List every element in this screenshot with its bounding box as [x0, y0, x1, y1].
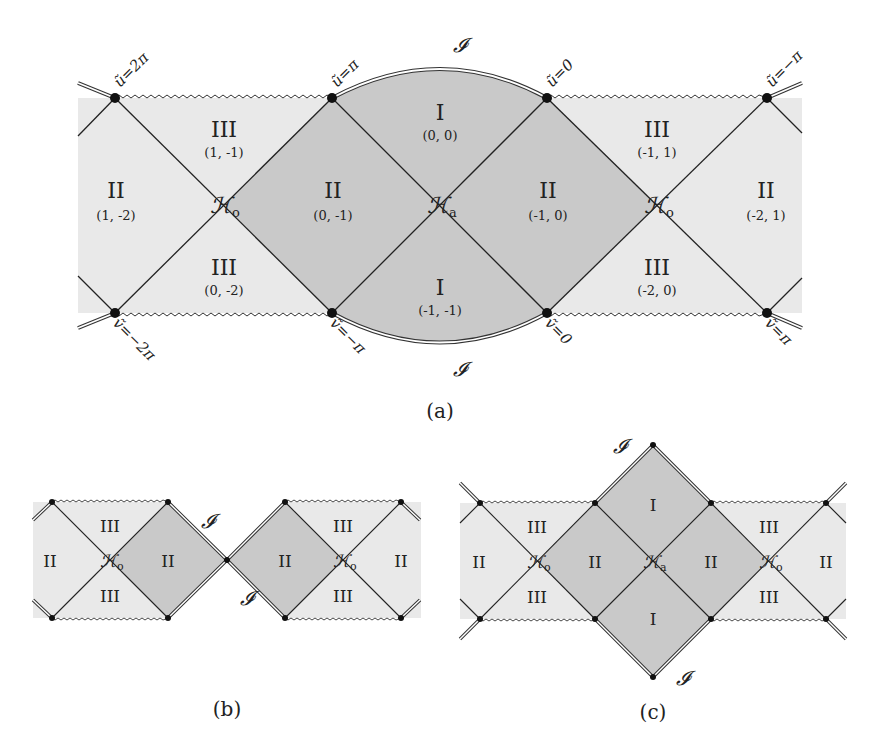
- region-coord: (-1, 0): [528, 208, 567, 223]
- region-label: II: [819, 552, 832, 572]
- region-label: III: [333, 516, 353, 536]
- panel-a: II (1, -2) III (1, -1) III (0, -2) II (0…: [78, 33, 807, 423]
- region-II-m2-1: II: [757, 178, 774, 203]
- boundary-v-m2pi: ṽ=−2π: [109, 314, 160, 365]
- caption-b: (b): [213, 697, 241, 721]
- region-I-m1-m1: I: [436, 275, 445, 300]
- region-III-m1-1: III: [644, 117, 670, 142]
- region-label: III: [100, 586, 120, 606]
- region-label: II: [161, 551, 174, 571]
- caption-c: (c): [640, 700, 667, 724]
- region-II-1-m2: II: [107, 178, 124, 203]
- singularity-top-left: [115, 95, 332, 98]
- region-label: II: [394, 551, 407, 571]
- region-label: II: [588, 552, 601, 572]
- region-label: III: [527, 517, 547, 537]
- boundary-u-0: ũ=0: [542, 55, 578, 91]
- scri-bottom-label: 𝓘: [453, 357, 473, 381]
- region-III-0-m2: III: [211, 255, 237, 280]
- boundary-v-pi: ṽ=π: [761, 314, 796, 349]
- region-coord: (0, -1): [313, 208, 352, 223]
- panel-c: II III III II I I II III III II ℋo ℋa ℋo…: [460, 434, 846, 724]
- region-label: III: [527, 587, 547, 607]
- region-I-0-0: I: [436, 100, 445, 125]
- region-label: III: [759, 517, 779, 537]
- penrose-diagram-figure: II (1, -2) III (1, -1) III (0, -2) II (0…: [0, 0, 881, 755]
- scri-bottom-label: 𝓘: [676, 666, 696, 690]
- region-II-0-m1: II: [324, 178, 341, 203]
- caption-a: (a): [426, 399, 454, 423]
- region-label: II: [472, 552, 485, 572]
- region-label: I: [650, 495, 657, 515]
- region-label: III: [100, 516, 120, 536]
- region-label: III: [333, 586, 353, 606]
- region-III-1-m1: III: [211, 117, 237, 142]
- region-coord: (-2, 1): [746, 208, 785, 223]
- region-label: II: [43, 551, 56, 571]
- region-coord: (0, 0): [423, 128, 458, 143]
- panel-b: II III III II II III III II ℋo ℋo 𝓘 𝓘 (b…: [33, 499, 421, 721]
- region-III-m2-0: III: [644, 255, 670, 280]
- region-label: II: [278, 551, 291, 571]
- scri-top-label: 𝓘: [453, 33, 473, 57]
- region-II-m1-0: II: [539, 178, 556, 203]
- boundary-u-2pi: ũ=2π: [110, 48, 153, 91]
- singularity-bottom-left: [115, 313, 332, 316]
- scri-top-label: 𝓘: [613, 434, 633, 458]
- region-label: II: [704, 552, 717, 572]
- region-coord: (-2, 0): [637, 283, 676, 298]
- region-coord: (1, -1): [204, 145, 243, 160]
- region-label: I: [650, 609, 657, 629]
- region-coord: (-1, 1): [637, 145, 676, 160]
- boundary-v-0: ṽ=0: [541, 314, 576, 349]
- region-coord: (-1, -1): [418, 303, 462, 318]
- region-coord: (1, -2): [96, 208, 135, 223]
- region-coord: (0, -2): [204, 283, 243, 298]
- singularity-top-right: [547, 95, 767, 98]
- region-label: III: [759, 587, 779, 607]
- singularity-bottom-right: [547, 313, 767, 316]
